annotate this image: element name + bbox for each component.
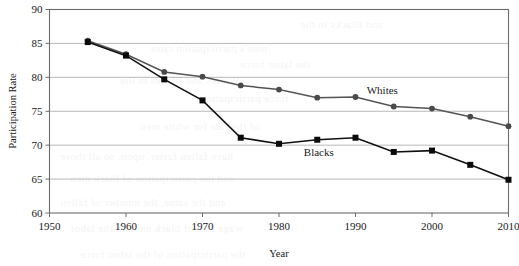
y-axis: 60657075808590 bbox=[32, 3, 50, 219]
marker-whites-2000 bbox=[429, 106, 435, 112]
marker-whites-1980 bbox=[276, 87, 282, 93]
marker-whites-2010 bbox=[506, 123, 512, 129]
x-tick-label-2010: 2010 bbox=[498, 220, 519, 232]
marker-blacks-2005 bbox=[467, 162, 473, 168]
participation-rate-line-chart: 60657075808590 1950196019701980199020002… bbox=[0, 0, 519, 266]
y-tick-label-65: 65 bbox=[32, 173, 44, 185]
x-tick-label-2000: 2000 bbox=[421, 220, 444, 232]
marker-blacks-1985 bbox=[314, 137, 320, 143]
marker-blacks-1960 bbox=[123, 53, 129, 59]
marker-blacks-1955 bbox=[85, 39, 91, 45]
y-axis-title: Participation Rate bbox=[7, 73, 18, 149]
marker-whites-1965 bbox=[161, 69, 167, 75]
x-tick-label-1950: 1950 bbox=[39, 220, 62, 232]
series-label-blacks: Blacks bbox=[304, 146, 334, 158]
x-axis: 1950196019701980199020002010 bbox=[39, 213, 519, 232]
series-label-whites: Whites bbox=[367, 84, 398, 96]
series-line-whites bbox=[88, 41, 509, 126]
series-annotations: WhitesBlacks bbox=[304, 84, 398, 158]
marker-whites-1990 bbox=[353, 94, 359, 100]
marker-whites-1985 bbox=[314, 95, 320, 101]
y-tick-label-60: 60 bbox=[32, 207, 44, 219]
marker-whites-1975 bbox=[238, 83, 244, 89]
x-tick-label-1980: 1980 bbox=[268, 220, 291, 232]
y-tick-label-70: 70 bbox=[32, 139, 44, 151]
x-axis-title: Year bbox=[269, 248, 289, 259]
marker-blacks-1990 bbox=[353, 135, 359, 141]
marker-blacks-2010 bbox=[506, 177, 512, 183]
marker-blacks-2000 bbox=[429, 148, 435, 154]
marker-blacks-1995 bbox=[391, 149, 397, 155]
marker-whites-1995 bbox=[391, 104, 397, 110]
marker-blacks-1975 bbox=[238, 135, 244, 141]
y-tick-label-90: 90 bbox=[32, 3, 44, 15]
y-tick-label-80: 80 bbox=[32, 71, 44, 83]
x-tick-label-1990: 1990 bbox=[345, 220, 368, 232]
marker-whites-2005 bbox=[467, 114, 473, 120]
marker-blacks-1965 bbox=[161, 76, 167, 82]
marker-whites-1970 bbox=[200, 74, 206, 80]
x-tick-label-1960: 1960 bbox=[115, 220, 138, 232]
chart-figure: and Blacks in themen's participation rat… bbox=[0, 0, 519, 266]
y-tick-label-85: 85 bbox=[32, 37, 44, 49]
marker-blacks-1970 bbox=[200, 97, 206, 103]
series-group bbox=[85, 38, 512, 183]
gridlines bbox=[50, 43, 509, 179]
y-tick-label-75: 75 bbox=[32, 105, 44, 117]
x-tick-label-1970: 1970 bbox=[192, 220, 215, 232]
marker-blacks-1980 bbox=[276, 141, 282, 147]
